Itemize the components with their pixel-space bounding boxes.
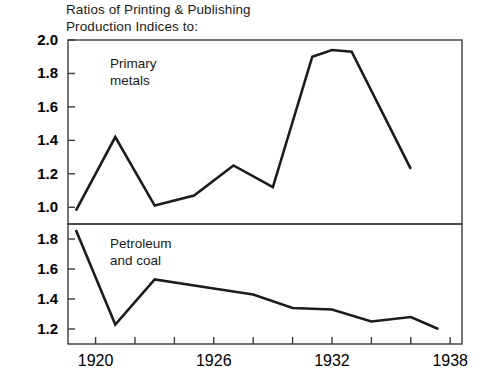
primary-metals-annotation-line-2: metals	[110, 73, 150, 88]
ytick-label-panel-0-0: 1.0	[37, 198, 58, 215]
chart-title-line-1: Ratios of Printing & Publishing	[66, 2, 251, 17]
ytick-label-panel-0-3: 1.6	[37, 98, 58, 115]
upper-panel-ytick-labels: 1.01.21.41.61.82.0	[37, 31, 59, 215]
xtick-label-1938: 1938	[432, 352, 468, 369]
ytick-label-panel-1-0: 1.2	[37, 320, 58, 337]
xtick-label-1926: 1926	[196, 352, 232, 369]
chart-figure: Ratios of Printing & Publishing Producti…	[0, 0, 492, 390]
xtick-group	[96, 337, 451, 344]
petroleum-coal-annotation-line-2: and coal	[110, 253, 161, 268]
lower-panel-ytick-group	[68, 239, 75, 329]
ytick-label-panel-1-1: 1.4	[37, 290, 59, 307]
lower-panel-ytick-labels: 1.21.41.61.8	[37, 230, 59, 337]
ytick-label-panel-0-4: 1.8	[37, 64, 58, 81]
ytick-label-panel-1-3: 1.8	[37, 230, 58, 247]
upper-panel-ytick-group	[68, 40, 75, 207]
ytick-label-panel-0-5: 2.0	[37, 31, 58, 48]
xtick-labels: 1920192619321938	[78, 352, 468, 369]
petroleum-coal-annotation-line-1: Petroleum	[110, 236, 172, 251]
ytick-label-panel-1-2: 1.6	[37, 260, 58, 277]
xtick-label-1920: 1920	[78, 352, 114, 369]
chart-title-line-2: Production Indices to:	[66, 19, 198, 34]
xtick-label-1932: 1932	[314, 352, 350, 369]
primary-metals-annotation-line-1: Primary	[110, 56, 157, 71]
ytick-label-panel-0-2: 1.4	[37, 131, 59, 148]
ytick-label-panel-0-1: 1.2	[37, 165, 58, 182]
